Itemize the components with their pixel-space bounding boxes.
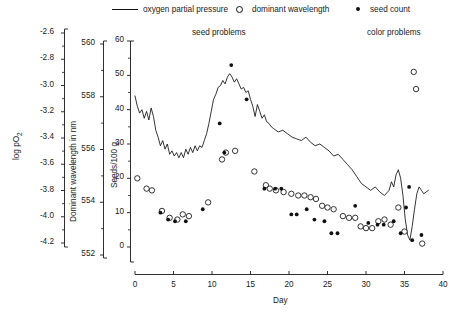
- data-point-seed-count-12: [289, 212, 293, 216]
- data-point-dominant-wavelength-26: [346, 215, 351, 220]
- data-point-seed-count-18: [336, 231, 340, 235]
- data-point-dominant-wavelength-35: [402, 229, 407, 234]
- data-point-dominant-wavelength-27: [353, 215, 358, 220]
- data-point-seed-count-11: [279, 187, 283, 191]
- data-point-dominant-wavelength-8: [205, 200, 210, 205]
- data-point-dominant-wavelength-23: [325, 205, 330, 210]
- data-point-seed-count-2: [173, 219, 177, 223]
- data-point-dominant-wavelength-20: [308, 195, 313, 200]
- data-point-dominant-wavelength-19: [302, 193, 307, 198]
- data-point-dominant-wavelength-38: [420, 241, 425, 246]
- data-point-seed-count-21: [376, 223, 380, 227]
- data-point-seed-count-28: [420, 233, 424, 237]
- data-point-dominant-wavelength-28: [358, 224, 363, 229]
- data-point-seed-count-14: [305, 207, 309, 211]
- series-oxygen-partial-pressure: [135, 74, 428, 241]
- data-point-dominant-wavelength-14: [267, 186, 272, 191]
- data-point-dominant-wavelength-18: [296, 193, 301, 198]
- data-point-seed-count-27: [410, 238, 414, 242]
- data-point-seed-count-26: [407, 185, 411, 189]
- data-point-seed-count-10: [273, 187, 277, 191]
- data-point-dominant-wavelength-24: [331, 207, 336, 212]
- data-point-dominant-wavelength-9: [219, 157, 224, 162]
- data-point-seed-count-13: [295, 212, 299, 216]
- data-point-dominant-wavelength-30: [369, 225, 374, 230]
- data-point-seed-count-24: [399, 231, 403, 235]
- data-point-seed-count-16: [323, 219, 327, 223]
- data-point-dominant-wavelength-36: [411, 69, 416, 74]
- data-point-seed-count-1: [166, 218, 170, 222]
- data-point-seed-count-5: [218, 122, 222, 126]
- data-point-dominant-wavelength-32: [382, 217, 387, 222]
- data-point-seed-count-0: [159, 211, 163, 215]
- data-point-seed-count-19: [353, 204, 357, 208]
- data-point-seed-count-22: [382, 223, 386, 227]
- data-point-seed-count-15: [313, 218, 317, 222]
- data-point-dominant-wavelength-37: [413, 86, 418, 91]
- data-point-seed-count-17: [329, 231, 333, 235]
- series-dominant-wavelength: [135, 69, 425, 246]
- data-point-dominant-wavelength-12: [252, 169, 257, 174]
- data-point-dominant-wavelength-6: [180, 212, 185, 217]
- data-point-seed-count-23: [392, 219, 396, 223]
- axis-dominant-wavelength: [100, 41, 107, 258]
- data-point-seed-count-20: [366, 221, 370, 225]
- data-point-dominant-wavelength-22: [319, 203, 324, 208]
- data-point-seed-count-4: [201, 207, 205, 211]
- data-point-seed-count-6: [222, 151, 226, 155]
- data-point-dominant-wavelength-1: [144, 186, 149, 191]
- data-point-dominant-wavelength-29: [363, 225, 368, 230]
- data-point-seed-count-3: [184, 219, 188, 223]
- data-point-dominant-wavelength-0: [135, 176, 140, 181]
- data-point-dominant-wavelength-2: [149, 188, 154, 193]
- data-point-dominant-wavelength-11: [232, 148, 237, 153]
- data-point-seed-count-8: [245, 97, 249, 101]
- data-point-dominant-wavelength-33: [388, 222, 393, 227]
- data-point-dominant-wavelength-34: [396, 205, 401, 210]
- data-point-dominant-wavelength-25: [340, 213, 345, 218]
- series-seed-count: [159, 63, 424, 242]
- data-point-dominant-wavelength-7: [186, 213, 191, 218]
- data-point-seed-count-25: [404, 206, 408, 210]
- axis-seeds: [127, 41, 134, 262]
- data-point-dominant-wavelength-17: [289, 191, 294, 196]
- data-point-seed-count-9: [262, 187, 266, 191]
- axis-log-po2: [61, 29, 68, 247]
- data-point-seed-count-7: [229, 63, 233, 67]
- axis-day: [135, 271, 443, 275]
- data-point-dominant-wavelength-21: [313, 196, 318, 201]
